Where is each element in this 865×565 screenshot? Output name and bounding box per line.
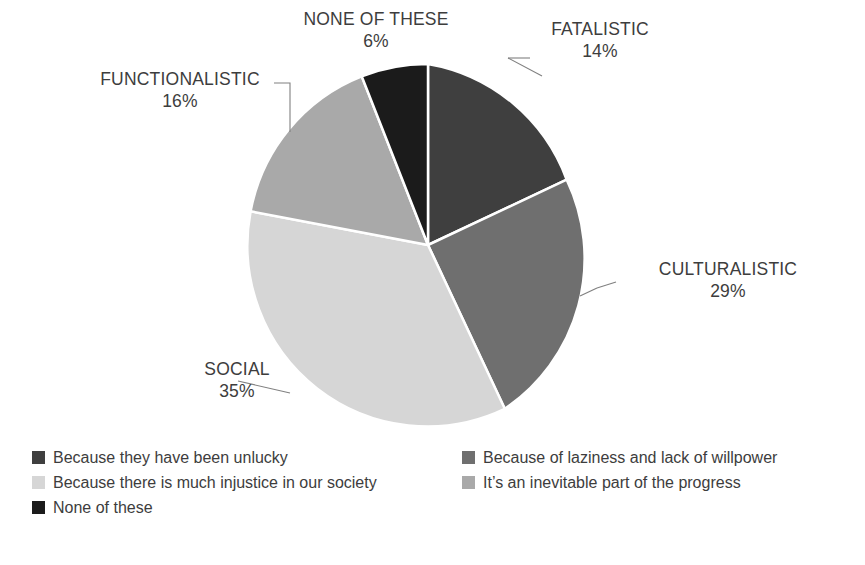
slice-label-functionalistic-pct: 16%	[60, 90, 300, 112]
slice-label-none-of-these: NONE OF THESE 6%	[266, 8, 486, 53]
legend-swatch-icon	[32, 451, 45, 464]
slice-label-fatalistic-name: FATALISTIC	[551, 19, 649, 39]
legend-item-none-of-these[interactable]: None of these	[32, 498, 462, 517]
legend-swatch-icon	[32, 476, 45, 489]
legend-item-label: Because there is much injustice in our s…	[53, 473, 377, 492]
slice-label-culturalistic: CULTURALISTIC 29%	[618, 258, 838, 303]
slice-label-culturalistic-pct: 29%	[618, 280, 838, 302]
slice-label-social-pct: 35%	[152, 380, 322, 402]
legend-swatch-icon	[462, 476, 475, 489]
legend-item-label: It’s an inevitable part of the progress	[483, 473, 741, 492]
slice-label-none-of-these-pct: 6%	[266, 30, 486, 52]
legend-item-laziness[interactable]: Because of laziness and lack of willpowe…	[462, 448, 832, 467]
chart-legend: Because they have been unlucky Because o…	[32, 448, 832, 524]
slice-label-none-of-these-name: NONE OF THESE	[303, 9, 448, 29]
leader-line-culturalistic	[597, 282, 616, 288]
slice-label-fatalistic: FATALISTIC 14%	[510, 18, 690, 63]
legend-item-unlucky[interactable]: Because they have been unlucky	[32, 448, 462, 467]
legend-item-label: Because they have been unlucky	[53, 448, 288, 467]
slice-label-fatalistic-pct: 14%	[510, 40, 690, 62]
legend-row: None of these	[32, 498, 832, 517]
slice-label-functionalistic: FUNCTIONALISTIC 16%	[60, 68, 300, 113]
legend-swatch-icon	[32, 501, 45, 514]
slice-label-functionalistic-name: FUNCTIONALISTIC	[100, 69, 260, 89]
legend-item-injustice[interactable]: Because there is much injustice in our s…	[32, 473, 462, 492]
pie-chart-graphic	[0, 0, 865, 440]
slice-label-social: SOCIAL 35%	[152, 358, 322, 403]
legend-row: Because there is much injustice in our s…	[32, 473, 832, 492]
slice-label-culturalistic-name: CULTURALISTIC	[659, 259, 797, 279]
legend-item-label: None of these	[53, 498, 153, 517]
legend-item-inevitable[interactable]: It’s an inevitable part of the progress	[462, 473, 832, 492]
legend-row: Because they have been unlucky Because o…	[32, 448, 832, 467]
slice-label-social-name: SOCIAL	[204, 359, 269, 379]
pie-chart-area: NONE OF THESE 6% FATALISTIC 14% FUNCTION…	[0, 0, 865, 440]
legend-item-label: Because of laziness and lack of willpowe…	[483, 448, 777, 467]
legend-swatch-icon	[462, 451, 475, 464]
